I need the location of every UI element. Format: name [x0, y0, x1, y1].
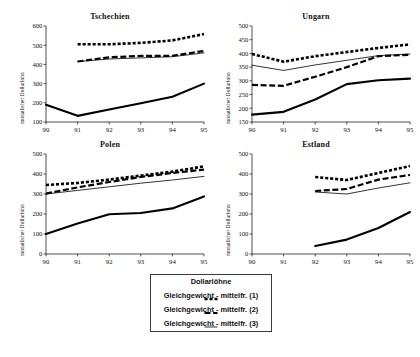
svg-text:200: 200: [239, 210, 250, 217]
svg-text:90: 90: [43, 126, 50, 133]
panel-title-tschechien: Tschechien: [12, 12, 208, 21]
svg-text:93: 93: [343, 258, 350, 265]
svg-text:300: 300: [239, 190, 250, 197]
svg-text:100: 100: [33, 118, 44, 125]
svg-text:400: 400: [33, 61, 44, 68]
svg-text:95: 95: [407, 258, 414, 265]
svg-text:94: 94: [375, 126, 382, 133]
panel-title-polen: Polen: [12, 140, 208, 149]
figure-root: Tschechien monatlicher Dollarlohn 100200…: [0, 0, 420, 357]
panel-tschechien: Tschechien monatlicher Dollarlohn 100200…: [12, 12, 208, 136]
svg-text:90: 90: [249, 126, 256, 133]
svg-text:90: 90: [43, 258, 50, 265]
svg-text:0: 0: [39, 250, 43, 257]
series-line: [46, 196, 204, 234]
chart-svg-ungarn: 150200250300350400450500909192939495: [228, 22, 414, 136]
svg-text:500: 500: [33, 42, 44, 49]
panel-title-ungarn: Ungarn: [218, 12, 414, 21]
chart-svg-tschechien: 100200300400500600909192939495: [22, 22, 208, 136]
svg-text:150: 150: [239, 118, 250, 125]
series-line: [252, 44, 410, 61]
svg-text:95: 95: [201, 126, 208, 133]
svg-text:400: 400: [239, 170, 250, 177]
svg-text:300: 300: [33, 80, 44, 87]
series-line: [78, 34, 204, 44]
svg-text:350: 350: [239, 63, 250, 70]
svg-text:200: 200: [33, 99, 44, 106]
panel-polen: Polen monatlicher Dollarlohn 01002003004…: [12, 140, 208, 268]
svg-text:300: 300: [239, 77, 250, 84]
svg-text:100: 100: [33, 230, 44, 237]
plot-area-estland: 0100200300400500909192939495: [228, 150, 414, 268]
svg-text:94: 94: [169, 126, 176, 133]
svg-text:100: 100: [239, 230, 250, 237]
series-line: [252, 79, 410, 115]
series-line: [46, 170, 204, 194]
svg-text:95: 95: [407, 126, 414, 133]
legend-item-1: Gleichgewicht - mittelfr. (1): [151, 287, 271, 300]
svg-text:450: 450: [239, 36, 250, 43]
panel-ungarn: Ungarn monatlicher Dollarlohn 1502002503…: [218, 12, 414, 136]
svg-text:95: 95: [201, 258, 208, 265]
plot-area-polen: 0100200300400500909192939495: [22, 150, 208, 268]
svg-text:91: 91: [280, 258, 287, 265]
legend-title: Dollarlöhne: [151, 277, 271, 286]
svg-text:94: 94: [375, 258, 382, 265]
svg-text:92: 92: [106, 126, 113, 133]
series-line: [46, 166, 204, 185]
svg-text:93: 93: [343, 126, 350, 133]
legend-label-2: Gleichgewicht - mittelfr. (2): [164, 305, 258, 314]
svg-text:91: 91: [280, 126, 287, 133]
svg-text:91: 91: [74, 258, 81, 265]
svg-text:0: 0: [245, 250, 249, 257]
chart-svg-polen: 0100200300400500909192939495: [22, 150, 208, 268]
plot-area-ungarn: 150200250300350400450500909192939495: [228, 22, 414, 136]
svg-text:94: 94: [169, 258, 176, 265]
legend-item-2: Gleichgewicht - mittelfr. (2): [151, 301, 271, 314]
series-line: [46, 84, 204, 116]
svg-text:500: 500: [33, 150, 44, 157]
svg-text:400: 400: [239, 50, 250, 57]
svg-text:600: 600: [33, 22, 44, 29]
svg-text:200: 200: [239, 105, 250, 112]
panel-title-estland: Estland: [218, 140, 414, 149]
legend-label-1: Gleichgewicht - mittelfr. (1): [164, 291, 258, 300]
svg-text:500: 500: [239, 22, 250, 29]
svg-text:250: 250: [239, 91, 250, 98]
panel-estland: Estland monatlicher Dollarlohn 010020030…: [218, 140, 414, 268]
svg-text:90: 90: [249, 258, 256, 265]
series-line: [252, 55, 410, 86]
svg-text:93: 93: [137, 258, 144, 265]
svg-text:400: 400: [33, 170, 44, 177]
svg-text:91: 91: [74, 126, 81, 133]
chart-svg-estland: 0100200300400500909192939495: [228, 150, 414, 268]
svg-text:500: 500: [239, 150, 250, 157]
legend-item-3: Gleichgewicht - mittelfr. (3): [151, 315, 271, 328]
svg-text:92: 92: [312, 126, 319, 133]
svg-text:93: 93: [137, 126, 144, 133]
series-line: [315, 212, 410, 246]
legend-label-3: Gleichgewicht - mittelfr. (3): [164, 319, 258, 328]
svg-text:300: 300: [33, 190, 44, 197]
svg-text:92: 92: [106, 258, 113, 265]
legend-box: Dollarlöhne Gleichgewicht - mittelfr. (1…: [150, 274, 272, 332]
plot-area-tschechien: 100200300400500600909192939495: [22, 22, 208, 136]
svg-text:200: 200: [33, 210, 44, 217]
svg-text:92: 92: [312, 258, 319, 265]
